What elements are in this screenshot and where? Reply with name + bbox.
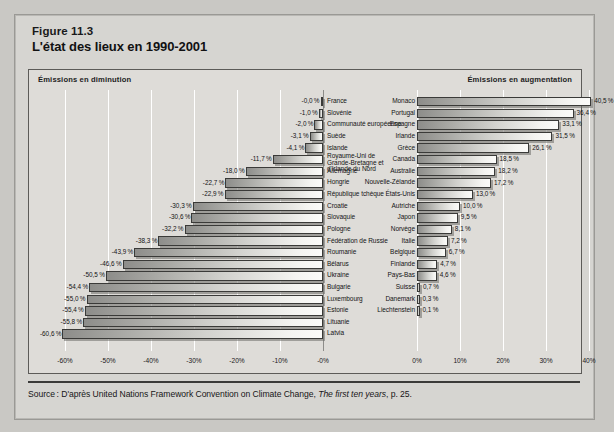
source-title: The first ten years (318, 389, 386, 399)
chart-bar-row: 13,0 %États-Unis (29, 189, 581, 201)
bar-value-label: 36,4 % (577, 109, 596, 116)
bar-category-label: Danemark (385, 295, 415, 302)
bar-increase[interactable] (417, 283, 420, 292)
bar-category-label: Autriche (392, 202, 415, 209)
band-label-increase: Émissions en augmentation (467, 75, 572, 84)
source-suffix: , p. 25. (386, 389, 412, 399)
chart-bar-row: 26,1 %Grèce (29, 142, 581, 154)
bar-value-label: 17,2 % (494, 179, 513, 186)
bar-increase[interactable] (417, 271, 437, 280)
bar-increase[interactable] (417, 306, 420, 315)
bar-increase[interactable] (417, 225, 452, 234)
chart-bar-row: 0,7 %Suisse (29, 282, 581, 294)
bar-value-label: 40,5 % (594, 97, 613, 104)
bar-increase[interactable] (417, 120, 559, 129)
figure-number: Figure 11.3 (32, 25, 93, 37)
bar-category-label: Japon (398, 213, 415, 220)
bar-increase[interactable] (417, 97, 591, 106)
bar-category-label: Pays-Bas (388, 271, 415, 278)
chart-bar-row: 0,3 %Danemark (29, 294, 581, 306)
bar-category-label: Irlande (395, 132, 415, 139)
chart-bar-row: 0,1 %Liechtenstein (29, 305, 581, 317)
bar-category-label: Liechtenstein (377, 306, 415, 313)
chart-bar-row: 8,1 %Norvège (29, 224, 581, 236)
chart-bar-row: 33,1 %Espagne (29, 119, 581, 131)
bar-value-label: 0,7 % (423, 283, 439, 290)
bar-category-label: Espagne (390, 120, 415, 127)
axis-area: -0,0 %France-1,0 %Slovénie-2,0 %Communau… (29, 90, 581, 373)
bar-increase[interactable] (417, 143, 529, 152)
bar-increase[interactable] (417, 190, 473, 199)
bar-increase[interactable] (417, 260, 437, 269)
chart-bar-row: 18,2 %Australie (29, 166, 581, 178)
bar-value-label: 31,5 % (555, 132, 574, 139)
source-divider (28, 381, 580, 383)
bar-value-label: 9,5 % (461, 213, 477, 220)
bar-category-label: Norvège (391, 225, 415, 232)
bar-value-label: 18,2 % (498, 167, 517, 174)
bar-increase[interactable] (417, 236, 448, 245)
figure-card: Figure 11.3 L'état des lieux en 1990-200… (14, 14, 595, 420)
bar-value-label: 0,1 % (423, 306, 439, 313)
figure-title: L'état des lieux en 1990-2001 (32, 39, 207, 54)
axis-tick-label: 20% (496, 357, 509, 364)
bar-value-label: 4,6 % (440, 271, 456, 278)
bar-increase[interactable] (417, 213, 458, 222)
bar-value-label: 18,5 % (500, 155, 519, 162)
bar-category-label: Finlande (390, 260, 415, 267)
bar-category-label: Grèce (398, 144, 415, 151)
bar-increase[interactable] (417, 178, 491, 187)
axis-tick-label: 10% (453, 357, 466, 364)
bar-category-label: Australie (390, 167, 415, 174)
chart-bar-row: 6,7 %Belgique (29, 247, 581, 259)
chart-bar-row: 40,5 %Monaco (29, 96, 581, 108)
bar-value-label: 4,7 % (440, 260, 456, 267)
bar-value-label: 13,0 % (476, 190, 495, 197)
axis-tick-label: 0% (412, 357, 422, 364)
gridline-right (589, 90, 590, 351)
axis-tick-label: 30% (539, 357, 552, 364)
bar-increase[interactable] (417, 167, 495, 176)
bar-increase[interactable] (417, 295, 420, 304)
bar-value-label: 6,7 % (449, 248, 465, 255)
bar-category-label: Suisse (396, 283, 415, 290)
chart-bar-row: 7,2 %Italie (29, 235, 581, 247)
bar-value-label: 33,1 % (562, 120, 581, 127)
bar-value-label: 0,3 % (423, 295, 439, 302)
source-note: Source : D'après United Nations Framewor… (28, 389, 412, 399)
bar-value-label: 7,2 % (451, 237, 467, 244)
chart-bar-row: 17,2 %Nouvelle-Zélande (29, 177, 581, 189)
bar-increase[interactable] (417, 109, 574, 118)
band-label-decrease: Émissions en diminution (38, 75, 131, 84)
chart-bar-row: 10,0 %Autriche (29, 201, 581, 213)
bar-increase[interactable] (417, 155, 497, 164)
chart-bar-row: 9,5 %Japon (29, 212, 581, 224)
right-axis-ticks: 0%10%20%30%40% (29, 353, 581, 371)
bar-increase[interactable] (417, 202, 460, 211)
bar-value-label: 8,1 % (455, 225, 471, 232)
bar-category-label: Portugal (391, 109, 415, 116)
chart-bar-row: 18,5 %Canada (29, 154, 581, 166)
chart-bar-row: 4,7 %Finlande (29, 259, 581, 271)
bar-value-label: 26,1 % (532, 144, 551, 151)
chart-bar-row: 36,4 %Portugal (29, 108, 581, 120)
bar-category-label: Italie (402, 237, 415, 244)
bar-category-label: États-Unis (386, 190, 415, 197)
bar-increase[interactable] (417, 248, 446, 257)
bar-category-label: Nouvelle-Zélande (365, 178, 415, 185)
bar-category-label: Canada (393, 155, 415, 162)
bar-increase[interactable] (417, 132, 552, 141)
bar-category-label: Monaco (392, 97, 415, 104)
bar-category-label: Belgique (390, 248, 415, 255)
bar-value-label: 10,0 % (463, 202, 482, 209)
chart-bar-row: 31,5 %Irlande (29, 131, 581, 143)
axis-tick-label: 40% (582, 357, 595, 364)
right-panel-rows: 40,5 %Monaco36,4 %Portugal33,1 %Espagne3… (29, 90, 581, 351)
chart-plot-area: Émissions en diminution Émissions en aug… (28, 69, 582, 374)
chart-bar-row: 4,6 %Pays-Bas (29, 270, 581, 282)
source-prefix: Source : D'après United Nations Framewor… (28, 389, 318, 399)
